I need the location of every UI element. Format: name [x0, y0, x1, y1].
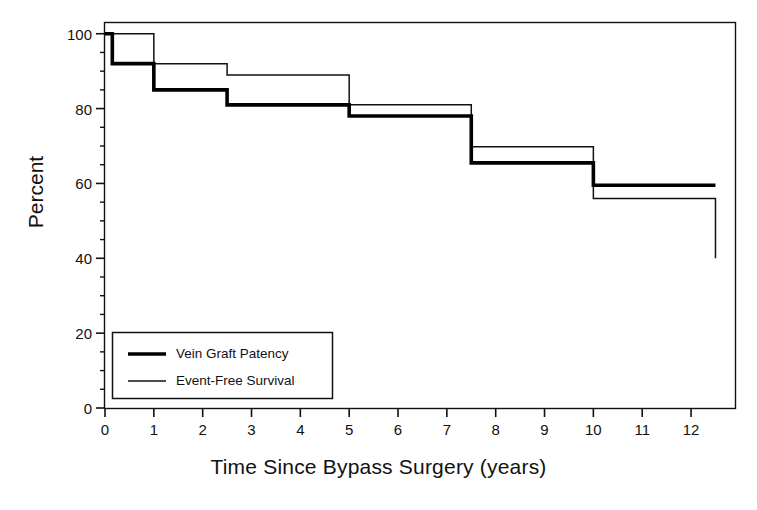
series-line-vein-graft-patency: [105, 34, 715, 186]
x-tick-label: 8: [492, 421, 500, 438]
x-tick-label: 3: [247, 421, 255, 438]
legend-label-event-free-survival: Event-Free Survival: [176, 373, 295, 388]
series-line-event-free-survival: [105, 34, 715, 259]
y-tick-label: 100: [40, 25, 92, 42]
x-tick-label: 7: [443, 421, 451, 438]
x-tick-label: 4: [296, 421, 304, 438]
x-tick-label: 9: [540, 421, 548, 438]
chart-figure: 020406080100 0123456789101112 Vein Graft…: [0, 0, 757, 510]
x-tick-label: 5: [345, 421, 353, 438]
x-tick-label: 12: [683, 421, 700, 438]
x-tick-label: 0: [101, 421, 109, 438]
y-tick-label: 20: [40, 325, 92, 342]
y-tick-label: 0: [40, 400, 92, 417]
x-tick-label: 6: [394, 421, 402, 438]
x-tick-label: 10: [585, 421, 602, 438]
x-tick-label: 1: [150, 421, 158, 438]
legend-label-vein-graft-patency: Vein Graft Patency: [176, 346, 289, 361]
legend-box: [113, 333, 333, 399]
x-axis-title: Time Since Bypass Surgery (years): [0, 455, 757, 479]
x-tick-label: 11: [634, 421, 650, 438]
x-tick-label: 2: [199, 421, 207, 438]
x-axis-major-ticks: [105, 408, 691, 417]
y-axis-title: Percent: [24, 112, 48, 272]
